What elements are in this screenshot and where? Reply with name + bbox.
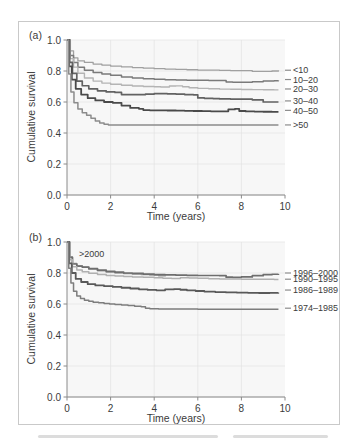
panel-a: (a) 0.00.20.40.60.81.00246810 <1010–2020…	[19, 22, 341, 224]
x-tick-label: 10	[279, 201, 291, 212]
panel-a-curve-labels: <1010–2020–3030–4040–50>50	[285, 65, 318, 130]
x-tick-label: 2	[108, 201, 114, 212]
caption-smudge-strip	[18, 430, 340, 442]
panel-b-xlabel: Time (years)	[147, 412, 206, 424]
y-tick-label: 1.0	[47, 35, 61, 46]
curve-label-3: 20–30	[293, 84, 318, 94]
y-tick-label: 0.4	[47, 128, 61, 139]
x-tick-label: 8	[239, 403, 245, 414]
y-tick-label: 1.0	[47, 237, 61, 248]
x-tick-label: 0	[64, 201, 70, 212]
panel-b-plot: 0.00.20.40.60.81.00246810 1996–20001990–…	[19, 224, 341, 426]
plot-area-fill	[67, 242, 285, 397]
y-tick-label: 0.0	[47, 190, 61, 201]
x-tick-label: 2	[108, 403, 114, 414]
caption-smudge-1	[38, 435, 218, 438]
panel-a-background	[67, 40, 285, 195]
curve-label-2: 1990–1995	[293, 274, 338, 284]
panel-a-plot: 0.00.20.40.60.81.00246810 <1010–2020–303…	[19, 22, 341, 224]
y-tick-label: 0.8	[47, 268, 61, 279]
figure-container: (a) 0.00.20.40.60.81.00246810 <1010–2020…	[0, 0, 353, 445]
x-tick-label: 0	[64, 403, 70, 414]
panel-b-curve-labels: 1996–20001990–19951986–19891974–1985	[285, 268, 338, 313]
panel-b-background	[67, 242, 285, 397]
panel-a-ylabel: Cumulative survival	[25, 71, 37, 162]
panel-a-svg: 0.00.20.40.60.81.00246810 <1010–2020–303…	[19, 22, 341, 224]
panel-b-svg: 0.00.20.40.60.81.00246810 1996–20001990–…	[19, 224, 341, 426]
curve-label-4: 1974–1985	[293, 303, 338, 313]
panel-b-annotation: >2000	[79, 249, 104, 259]
curve-label-3: 1986–1989	[293, 285, 338, 295]
panel-b-ylabel: Cumulative survival	[25, 273, 37, 364]
y-tick-label: 0.6	[47, 97, 61, 108]
x-tick-label: 8	[239, 201, 245, 212]
y-tick-label: 0.6	[47, 299, 61, 310]
y-tick-label: 0.2	[47, 361, 61, 372]
plot-area-fill	[67, 40, 285, 195]
y-tick-label: 0.4	[47, 330, 61, 341]
y-tick-label: 0.0	[47, 392, 61, 403]
panel-b: (b) 0.00.20.40.60.81.00246810 1996–20001…	[19, 224, 341, 426]
curve-label-6: >50	[293, 120, 308, 130]
panel-a-xlabel: Time (years)	[147, 210, 206, 222]
figure-frame: (a) 0.00.20.40.60.81.00246810 <1010–2020…	[18, 21, 340, 425]
y-tick-label: 0.2	[47, 159, 61, 170]
y-tick-label: 0.8	[47, 66, 61, 77]
caption-smudge-2	[233, 435, 328, 438]
x-tick-label: 10	[279, 403, 291, 414]
curve-label-5: 40–50	[293, 106, 318, 116]
